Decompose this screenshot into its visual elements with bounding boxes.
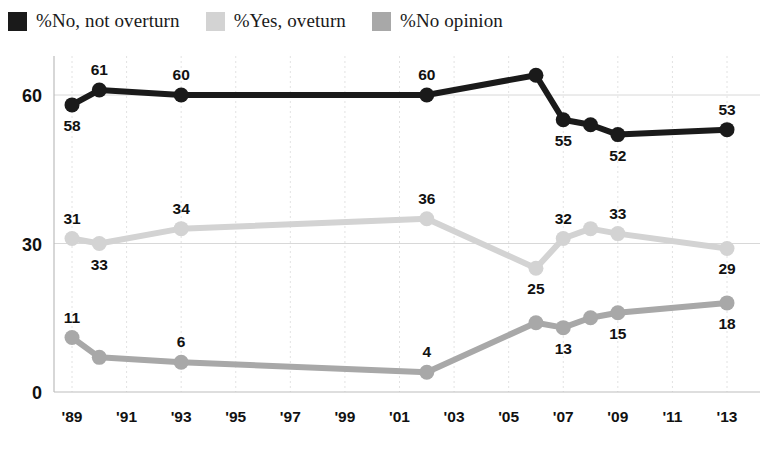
x-axis-tick-label: '95 [225, 408, 246, 425]
x-axis-tick-label: '11 [662, 408, 682, 425]
data-point-label: 15 [609, 325, 627, 342]
x-axis-tick-label: '93 [171, 408, 192, 425]
data-point-marker[interactable] [583, 221, 598, 236]
x-axis-tick-label: '13 [717, 408, 738, 425]
chart-plot-area: 3133343625323329116413151858616060555253… [0, 38, 773, 452]
x-axis-tick-label: '05 [498, 408, 519, 425]
data-point-marker[interactable] [92, 236, 107, 251]
x-axis-tick-label: '89 [62, 408, 83, 425]
legend-swatch-no-not-overturn-icon [8, 12, 27, 31]
data-point-marker[interactable] [174, 88, 189, 103]
data-point-marker[interactable] [419, 365, 434, 380]
data-point-marker[interactable] [720, 241, 735, 256]
x-axis-tick-label: '03 [444, 408, 465, 425]
data-point-label: 36 [418, 190, 436, 207]
data-point-label: 29 [718, 260, 736, 277]
data-point-marker[interactable] [419, 88, 434, 103]
data-point-marker[interactable] [65, 231, 80, 246]
data-point-marker[interactable] [419, 211, 434, 226]
data-point-marker[interactable] [556, 231, 571, 246]
x-axis-tick-label: '91 [116, 408, 137, 425]
data-point-marker[interactable] [174, 355, 189, 370]
y-axis-tick-label: 60 [22, 86, 42, 106]
legend-item-label: %No opinion [400, 10, 503, 32]
data-point-label: 13 [555, 340, 573, 357]
data-point-marker[interactable] [92, 350, 107, 365]
data-point-marker[interactable] [92, 83, 107, 98]
data-point-label: 32 [555, 210, 572, 227]
data-point-marker[interactable] [720, 295, 735, 310]
legend-item[interactable]: %No, not overturn [8, 10, 180, 32]
data-point-label: 33 [91, 256, 109, 273]
data-point-label: 60 [418, 66, 435, 83]
x-axis-tick-label: '07 [553, 408, 574, 425]
data-point-marker[interactable] [528, 261, 543, 276]
data-point-label: 33 [609, 205, 627, 222]
data-point-label: 18 [718, 315, 736, 332]
data-point-label: 6 [177, 333, 186, 350]
data-point-marker[interactable] [610, 226, 625, 241]
data-point-label: 60 [173, 66, 190, 83]
x-axis-tick-label: '01 [389, 408, 410, 425]
data-point-label: 34 [173, 200, 191, 217]
line-chart: 3133343625323329116413151858616060555253… [0, 38, 773, 452]
data-point-marker[interactable] [65, 97, 80, 112]
data-point-label: 58 [63, 117, 81, 134]
x-axis-tick-labels: '89'91'93'95'97'99'01'03'05'07'09'11'13 [62, 408, 738, 425]
y-axis-tick-label: 30 [22, 235, 42, 255]
data-point-marker[interactable] [174, 221, 189, 236]
x-axis-tick-label: '97 [280, 408, 301, 425]
data-point-marker[interactable] [720, 122, 735, 137]
data-point-label: 53 [718, 101, 736, 118]
chart-legend: %No, not overturn%Yes, oveturn%No opinio… [8, 6, 529, 36]
data-point-marker[interactable] [610, 305, 625, 320]
data-point-marker[interactable] [528, 68, 543, 83]
x-axis-tick-label: '99 [334, 408, 355, 425]
data-point-marker[interactable] [65, 330, 80, 345]
chart-series [65, 68, 735, 142]
y-axis-tick-label: 0 [32, 383, 42, 403]
legend-swatch-yes-overturn-icon [206, 12, 225, 31]
legend-item[interactable]: %No opinion [372, 10, 503, 32]
data-point-marker[interactable] [556, 320, 571, 335]
legend-item-label: %No, not overturn [36, 10, 180, 32]
data-point-label: 61 [91, 61, 109, 78]
data-point-label: 52 [609, 147, 626, 164]
data-point-label: 4 [422, 343, 431, 360]
data-point-marker[interactable] [583, 310, 598, 325]
grid-layer [54, 56, 760, 392]
legend-item[interactable]: %Yes, oveturn [206, 10, 346, 32]
data-point-marker[interactable] [556, 112, 571, 127]
x-axis-tick-label: '09 [607, 408, 628, 425]
data-point-label: 25 [527, 280, 545, 297]
y-axis-tick-labels: 03060 [22, 86, 42, 403]
legend-swatch-no-opinion-icon [372, 12, 391, 31]
legend-item-label: %Yes, oveturn [234, 10, 346, 32]
data-point-label: 55 [555, 132, 573, 149]
data-point-marker[interactable] [610, 127, 625, 142]
data-point-label: 11 [64, 309, 81, 326]
data-point-label: 31 [63, 210, 81, 227]
data-label-layer: 3133343625323329116413151858616060555253 [63, 61, 736, 360]
data-point-marker[interactable] [528, 315, 543, 330]
data-point-marker[interactable] [583, 117, 598, 132]
series-line [72, 75, 727, 134]
